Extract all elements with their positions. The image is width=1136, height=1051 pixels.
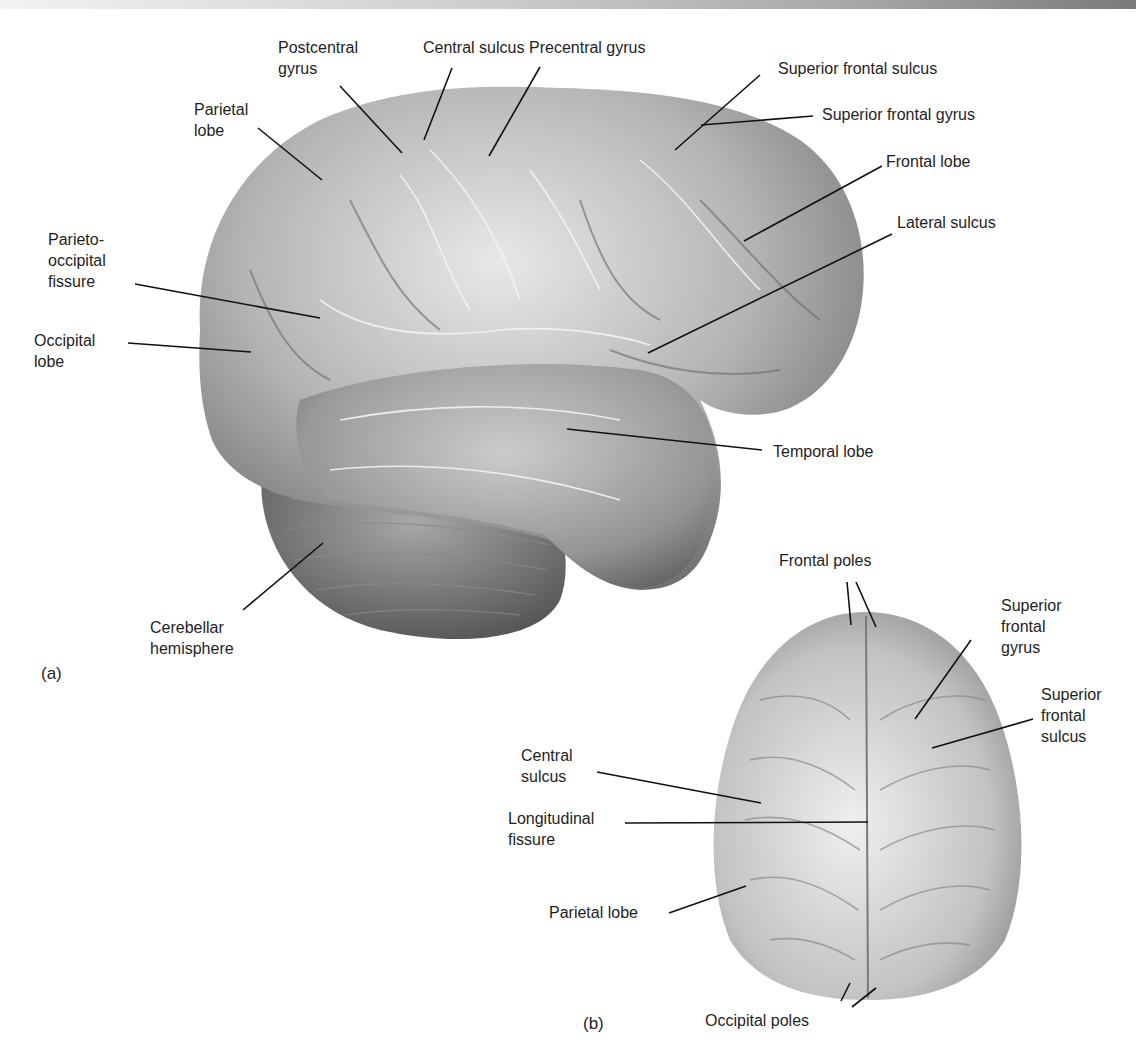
label-parietal-lobe-b: Parietal lobe (549, 902, 638, 923)
label-precentral-gyrus: Precentral gyrus (529, 37, 646, 58)
panel-label-b: (b) (583, 1014, 604, 1034)
label-frontal-poles: Frontal poles (779, 550, 872, 571)
label-central-sulcus-b: Central sulcus (521, 745, 573, 787)
label-central-sulcus: Central sulcus (423, 37, 524, 58)
label-superior-frontal-gyrus-b: Superior frontal gyrus (1001, 595, 1061, 658)
label-parieto-occipital-fissure: Parieto- occipital fissure (48, 229, 106, 292)
label-temporal-lobe: Temporal lobe (773, 441, 874, 462)
label-occipital-lobe: Occipital lobe (34, 330, 95, 372)
leader-longitudinal-fissure (625, 822, 868, 823)
label-postcentral-gyrus: Postcentral gyrus (278, 37, 358, 79)
superior-brain-view (714, 612, 1022, 1000)
label-frontal-lobe: Frontal lobe (886, 151, 971, 172)
label-superior-frontal-sulcus: Superior frontal sulcus (778, 58, 937, 79)
label-longitudinal-fissure: Longitudinal fissure (508, 808, 594, 850)
label-occipital-poles: Occipital poles (705, 1010, 809, 1031)
label-superior-frontal-gyrus: Superior frontal gyrus (822, 104, 975, 125)
label-lateral-sulcus: Lateral sulcus (897, 212, 996, 233)
label-superior-frontal-sulcus-b: Superior frontal sulcus (1041, 684, 1101, 747)
panel-label-a: (a) (41, 664, 62, 684)
label-parietal-lobe: Parietal lobe (194, 99, 248, 141)
label-cerebellar-hemisphere: Cerebellar hemisphere (150, 617, 234, 659)
lateral-brain-view (199, 87, 863, 639)
